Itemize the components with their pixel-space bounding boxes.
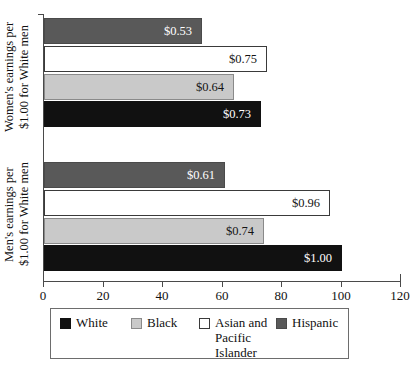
legend-label-white: White (76, 315, 108, 330)
x-tick-label-40: 40 (142, 288, 182, 304)
bar-women-asian-pacific-islander: $0.75 (44, 46, 267, 72)
x-tick-100 (341, 281, 342, 287)
legend-item-black: Black (131, 315, 177, 330)
legend-swatch-asian-pacific-islander-icon (199, 318, 210, 329)
bar-value-women-hispanic: $0.53 (164, 24, 201, 39)
x-tick-label-120: 120 (380, 288, 411, 304)
bar-men-asian-pacific-islander: $0.96 (44, 190, 330, 216)
x-tick-label-0: 0 (23, 288, 63, 304)
legend-swatch-black-icon (131, 318, 142, 329)
x-tick-80 (281, 281, 282, 287)
x-tick-20 (103, 281, 104, 287)
bar-value-men-hispanic: $0.61 (187, 168, 224, 183)
bar-value-women-black: $0.64 (196, 80, 233, 95)
legend-swatch-hispanic-icon (276, 318, 287, 329)
x-tick-label-60: 60 (202, 288, 242, 304)
bar-men-black: $0.74 (44, 218, 264, 244)
legend-item-asian-pacific-islander: Asian and Pacific Islander (199, 315, 267, 360)
bar-women-black: $0.64 (44, 74, 234, 100)
legend-item-hispanic: Hispanic (276, 315, 338, 330)
bar-women-hispanic: $0.53 (44, 18, 202, 44)
x-tick-40 (162, 281, 163, 287)
bar-men-white: $1.00 (44, 245, 342, 271)
bar-value-men-asian-pacific-islander: $0.96 (292, 196, 329, 211)
chart-legend: White Black Asian and Pacific Islander H… (50, 308, 349, 359)
legend-item-white: White (60, 315, 108, 330)
bar-women-white: $0.73 (44, 101, 261, 127)
x-tick-label-100: 100 (321, 288, 361, 304)
legend-label-hispanic: Hispanic (292, 315, 338, 330)
bar-value-women-asian-pacific-islander: $0.75 (229, 52, 266, 67)
bar-value-men-white: $1.00 (304, 251, 341, 266)
x-tick-label-20: 20 (83, 288, 123, 304)
legend-label-black: Black (147, 315, 177, 330)
x-tick-120 (400, 281, 401, 287)
bar-value-women-white: $0.73 (223, 107, 260, 122)
x-tick-60 (222, 281, 223, 287)
bar-chart: Women's earnings per $1.00 for White men… (0, 0, 411, 377)
y-axis-top-cap (38, 14, 44, 15)
bar-value-men-black: $0.74 (226, 224, 263, 239)
legend-swatch-white-icon (60, 318, 71, 329)
y-axis-group-label-men: Men's earnings per $1.00 for White men (2, 152, 36, 277)
x-tick-label-80: 80 (261, 288, 301, 304)
legend-label-asian-pacific-islander: Asian and Pacific Islander (215, 315, 267, 360)
bar-men-hispanic: $0.61 (44, 162, 225, 188)
y-axis-group-label-women: Women's earnings per $1.00 for White men (2, 10, 36, 144)
x-tick-0 (43, 281, 44, 287)
